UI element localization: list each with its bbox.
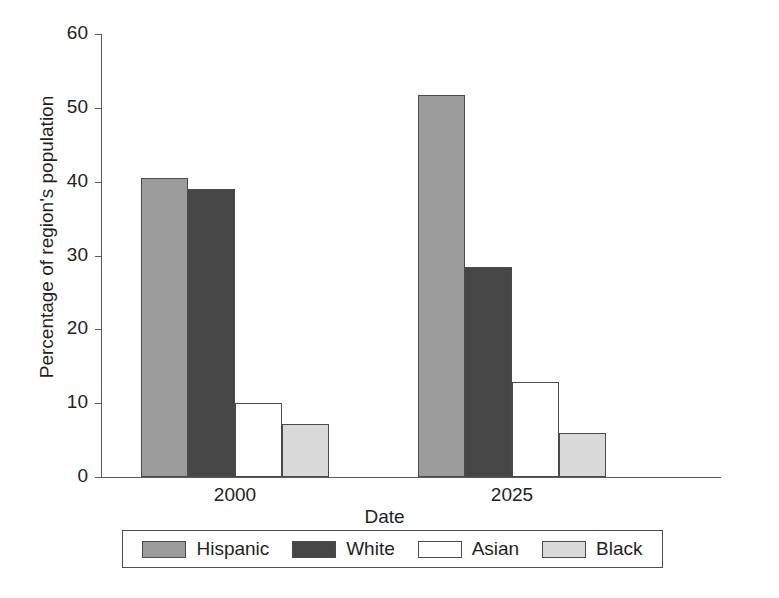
y-axis-tick-label: 20 bbox=[16, 317, 88, 339]
legend-swatch-icon bbox=[542, 541, 586, 558]
legend-label: White bbox=[346, 538, 395, 560]
y-axis-tick-label: 40 bbox=[16, 170, 88, 192]
chart-legend: HispanicWhiteAsianBlack bbox=[122, 530, 663, 568]
x-axis-line bbox=[101, 477, 721, 478]
bar-black-2000 bbox=[282, 424, 329, 477]
legend-label: Asian bbox=[472, 538, 520, 560]
y-axis-tick-label: 60 bbox=[16, 22, 88, 44]
legend-swatch-icon bbox=[418, 541, 462, 558]
bar-hispanic-2000 bbox=[141, 178, 188, 477]
bars-layer bbox=[101, 34, 721, 477]
legend-swatch-icon bbox=[142, 541, 186, 558]
legend-swatch-icon bbox=[292, 541, 336, 558]
legend-item-white[interactable]: White bbox=[292, 538, 395, 560]
y-axis-title: Percentage of region's population bbox=[36, 27, 58, 447]
y-axis-tick-label: 10 bbox=[16, 391, 88, 413]
bar-white-2025 bbox=[465, 267, 512, 477]
y-axis-tick-label: 0 bbox=[16, 465, 88, 487]
legend-item-asian[interactable]: Asian bbox=[418, 538, 520, 560]
x-axis-title: Date bbox=[364, 506, 404, 528]
x-axis-tick-label: 2025 bbox=[452, 484, 572, 506]
legend-item-hispanic[interactable]: Hispanic bbox=[142, 538, 269, 560]
legend-label: Black bbox=[596, 538, 642, 560]
bar-chart: Percentage of region's population 605040… bbox=[0, 0, 779, 598]
x-axis-title-wrap: Date bbox=[0, 506, 779, 528]
x-axis-tick-label: 2000 bbox=[175, 484, 295, 506]
y-axis-tick-mark bbox=[95, 477, 102, 478]
bar-asian-2025 bbox=[512, 382, 559, 477]
bar-asian-2000 bbox=[235, 403, 282, 477]
legend-label: Hispanic bbox=[196, 538, 269, 560]
bar-black-2025 bbox=[559, 433, 606, 477]
bar-white-2000 bbox=[188, 189, 235, 477]
legend-item-black[interactable]: Black bbox=[542, 538, 642, 560]
bar-hispanic-2025 bbox=[418, 95, 465, 477]
y-axis-tick-label: 30 bbox=[16, 244, 88, 266]
y-axis-tick-label: 50 bbox=[16, 96, 88, 118]
